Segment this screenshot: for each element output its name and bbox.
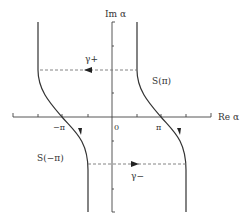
arrow-left-icon	[84, 67, 92, 73]
arrow-right-icon	[131, 161, 139, 167]
real-axis-label: Re α	[218, 112, 239, 122]
arrow-down-icon	[177, 128, 181, 135]
pi-label: π	[156, 123, 161, 132]
origin-label: 0	[114, 123, 119, 132]
gamma-minus-label: γ−	[131, 171, 144, 181]
s-minus-pi-label: S(−π)	[37, 153, 64, 163]
complex-plane-diagram: Im α Re α 0 −π π S(π) S(−π) γ+ γ−	[0, 0, 246, 222]
s-pi-label: S(π)	[152, 76, 171, 86]
imag-axis-label: Im α	[105, 9, 126, 19]
minus-pi-label: −π	[53, 123, 65, 132]
arrow-down-icon	[78, 128, 82, 135]
gamma-plus-label: γ+	[85, 54, 98, 64]
